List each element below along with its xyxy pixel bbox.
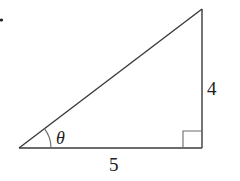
angle-label: θ (56, 128, 65, 148)
right-angle-marker (183, 131, 202, 148)
stray-dot (0, 18, 3, 21)
base-label: 5 (109, 154, 119, 175)
height-label: 4 (207, 78, 217, 99)
angle-arc (45, 129, 52, 148)
triangle-diagram: θ 5 4 (0, 0, 240, 181)
hypotenuse (19, 9, 202, 148)
